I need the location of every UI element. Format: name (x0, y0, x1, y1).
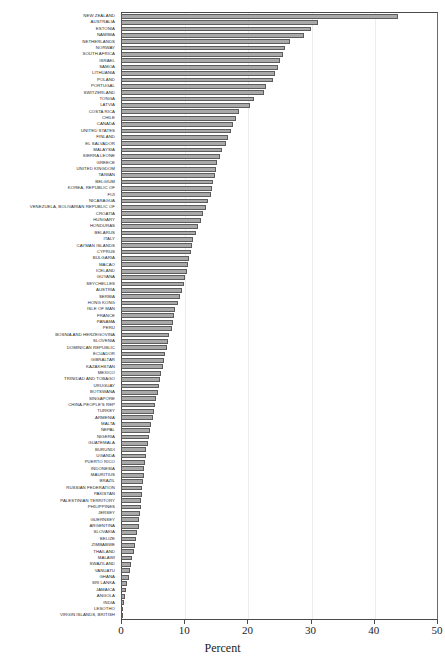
bar[interactable] (121, 301, 178, 306)
x-axis-title: Percent (0, 641, 445, 656)
bar[interactable] (121, 243, 192, 248)
bar[interactable] (121, 39, 290, 44)
bar[interactable] (121, 256, 189, 261)
bar[interactable] (121, 607, 123, 612)
bar[interactable] (121, 460, 145, 465)
bar[interactable] (121, 479, 143, 484)
bar[interactable] (121, 377, 160, 382)
bar[interactable] (121, 52, 283, 57)
bar[interactable] (121, 454, 146, 459)
bar[interactable] (121, 211, 203, 216)
bar[interactable] (121, 282, 184, 287)
bar[interactable] (121, 109, 239, 114)
bar[interactable] (121, 97, 254, 102)
bar[interactable] (121, 58, 280, 63)
x-axis-tick-labels: 01020304050 (0, 624, 445, 638)
bar[interactable] (121, 250, 191, 255)
bar[interactable] (121, 33, 304, 38)
bar[interactable] (121, 575, 129, 580)
bar[interactable] (121, 46, 285, 51)
bar[interactable] (121, 435, 149, 440)
bar[interactable] (121, 537, 136, 542)
bar[interactable] (121, 262, 188, 267)
bar[interactable] (121, 135, 228, 140)
bar[interactable] (121, 71, 275, 76)
bar[interactable] (121, 14, 398, 19)
bar[interactable] (121, 492, 142, 497)
bar[interactable] (121, 511, 140, 516)
bar[interactable] (121, 352, 165, 357)
bar[interactable] (121, 294, 180, 299)
bar[interactable] (121, 333, 169, 338)
bar[interactable] (121, 358, 164, 363)
bar[interactable] (121, 199, 208, 204)
bar[interactable] (121, 167, 216, 172)
bar[interactable] (121, 371, 161, 376)
bar[interactable] (121, 269, 187, 274)
bar[interactable] (121, 588, 126, 593)
bar[interactable] (121, 390, 158, 395)
bar[interactable] (121, 594, 125, 599)
bar[interactable] (121, 173, 215, 178)
bar[interactable] (121, 486, 142, 491)
bars-container (121, 13, 437, 619)
bar[interactable] (121, 556, 132, 561)
bar[interactable] (121, 186, 212, 191)
bar[interactable] (121, 320, 173, 325)
bar[interactable] (121, 84, 266, 89)
bar[interactable] (121, 549, 134, 554)
bar[interactable] (121, 192, 211, 197)
bar[interactable] (121, 543, 135, 548)
bar[interactable] (121, 524, 139, 529)
bar[interactable] (121, 326, 172, 331)
bar[interactable] (121, 613, 123, 618)
bar[interactable] (121, 600, 124, 605)
bar[interactable] (121, 428, 150, 433)
bar[interactable] (121, 180, 213, 185)
bar[interactable] (121, 441, 148, 446)
bar[interactable] (121, 307, 175, 312)
bar[interactable] (121, 345, 167, 350)
bar[interactable] (121, 339, 168, 344)
bar[interactable] (121, 231, 196, 236)
bar[interactable] (121, 415, 153, 420)
bar[interactable] (121, 20, 318, 25)
bar[interactable] (121, 517, 139, 522)
bar[interactable] (121, 466, 144, 471)
x-axis-tick-label: 30 (305, 624, 316, 636)
bar[interactable] (121, 129, 231, 134)
bar[interactable] (121, 65, 278, 70)
bar[interactable] (121, 530, 137, 535)
bar[interactable] (121, 237, 193, 242)
bar[interactable] (121, 116, 236, 121)
bar[interactable] (121, 364, 163, 369)
bar[interactable] (121, 581, 127, 586)
bar[interactable] (121, 160, 217, 165)
bar[interactable] (121, 90, 264, 95)
bar[interactable] (121, 313, 174, 318)
bar[interactable] (121, 224, 198, 229)
bar-row[interactable] (121, 612, 437, 618)
bar[interactable] (121, 122, 233, 127)
bar[interactable] (121, 396, 156, 401)
bar[interactable] (121, 288, 182, 293)
bar[interactable] (121, 148, 222, 153)
bar[interactable] (121, 498, 141, 503)
bar[interactable] (121, 422, 151, 427)
bar[interactable] (121, 562, 131, 567)
bar[interactable] (121, 218, 201, 223)
bar[interactable] (121, 275, 185, 280)
bar[interactable] (121, 205, 206, 210)
bar[interactable] (121, 103, 250, 108)
bar[interactable] (121, 141, 226, 146)
bar[interactable] (121, 473, 144, 478)
bar[interactable] (121, 568, 130, 573)
bar[interactable] (121, 384, 159, 389)
bar[interactable] (121, 505, 141, 510)
bar[interactable] (121, 403, 155, 408)
bar[interactable] (121, 154, 220, 159)
bar[interactable] (121, 78, 273, 83)
bar[interactable] (121, 447, 146, 452)
bar[interactable] (121, 27, 311, 32)
bar[interactable] (121, 409, 154, 414)
